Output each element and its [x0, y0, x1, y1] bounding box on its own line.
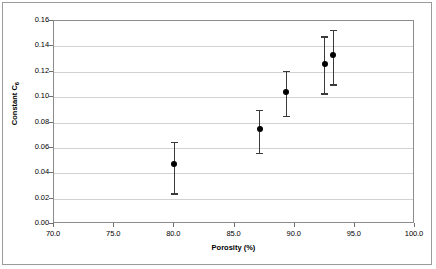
- data-point-marker: [257, 126, 263, 132]
- x-tick-label: 95.0: [334, 230, 374, 238]
- data-point-marker: [171, 161, 177, 167]
- y-tick-mark: [49, 147, 53, 148]
- gridline-y: [54, 173, 413, 174]
- errorbar-line: [259, 110, 260, 154]
- gridline-y: [54, 97, 413, 98]
- errorbar-cap-lower: [330, 84, 337, 85]
- x-tick-mark: [53, 223, 54, 227]
- y-tick-mark: [49, 71, 53, 72]
- chart-figure: 0.000.020.040.060.080.100.120.140.16 70.…: [2, 2, 432, 265]
- gridline-y: [54, 72, 413, 73]
- y-tick-mark: [49, 198, 53, 199]
- x-tick-mark: [294, 223, 295, 227]
- errorbar-cap-upper: [330, 30, 337, 31]
- y-tick-label: 0.16: [3, 16, 49, 24]
- x-tick-label: 70.0: [33, 230, 73, 238]
- x-tick-label: 90.0: [274, 230, 314, 238]
- y-tick-label: 0.00: [3, 219, 49, 227]
- x-tick-label: 75.0: [93, 230, 133, 238]
- x-tick-mark: [414, 223, 415, 227]
- x-tick-label: 80.0: [153, 230, 193, 238]
- y-tick-label: 0.04: [3, 168, 49, 176]
- y-axis-title: Constant C6: [10, 59, 19, 149]
- y-tick-mark: [49, 172, 53, 173]
- data-point-marker: [330, 52, 336, 58]
- plot-area: [53, 20, 414, 223]
- errorbar-line: [174, 142, 175, 195]
- gridline-y: [54, 199, 413, 200]
- errorbar-cap-upper: [171, 142, 178, 143]
- y-tick-mark: [49, 20, 53, 21]
- y-tick-mark: [49, 122, 53, 123]
- data-point-marker: [322, 61, 328, 67]
- gridline-y: [54, 148, 413, 149]
- errorbar-cap-upper: [256, 110, 263, 111]
- x-tick-mark: [173, 223, 174, 227]
- errorbar-cap-upper: [321, 36, 328, 37]
- gridline-y: [54, 46, 413, 47]
- errorbar-cap-lower: [283, 116, 290, 117]
- x-tick-mark: [354, 223, 355, 227]
- errorbar-cap-upper: [283, 71, 290, 72]
- errorbar-cap-lower: [256, 153, 263, 154]
- x-tick-label: 85.0: [214, 230, 254, 238]
- gridline-y: [54, 123, 413, 124]
- data-point-marker: [283, 89, 289, 95]
- errorbar-cap-lower: [171, 193, 178, 194]
- y-tick-mark: [49, 45, 53, 46]
- y-tick-mark: [49, 96, 53, 97]
- x-axis-title: Porosity (%): [53, 243, 414, 252]
- errorbar-cap-lower: [321, 93, 328, 94]
- x-tick-mark: [113, 223, 114, 227]
- y-tick-label: 0.14: [3, 41, 49, 49]
- x-tick-label: 100.0: [394, 230, 434, 238]
- x-tick-mark: [234, 223, 235, 227]
- y-tick-label: 0.02: [3, 194, 49, 202]
- y-axis-title-subscript: 6: [14, 82, 20, 85]
